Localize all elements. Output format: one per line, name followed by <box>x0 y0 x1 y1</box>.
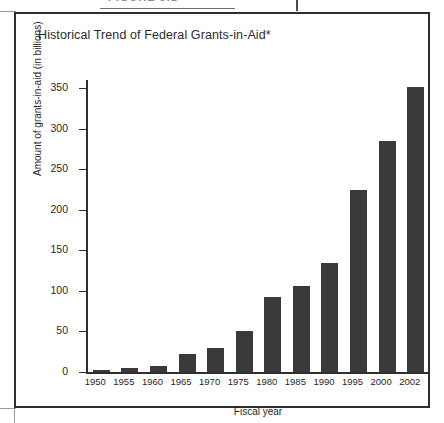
y-axis-tick-label: 250 <box>50 162 68 174</box>
bar-chart-plot-area: 050100150200250300350 Amount of grants-i… <box>86 80 436 380</box>
bar[interactable] <box>236 331 253 372</box>
bar-slot: 1950 <box>87 80 116 372</box>
figure-header-strip: FIGURE 3.1 <box>0 0 444 12</box>
bar[interactable] <box>350 190 367 373</box>
bar-slot: 1955 <box>116 80 145 372</box>
figure-header-rule <box>100 8 235 9</box>
bar[interactable] <box>150 366 167 372</box>
y-axis-tick-label: 350 <box>50 81 68 93</box>
x-axis-line <box>86 372 430 374</box>
y-axis-tick-label: 50 <box>56 324 68 336</box>
y-axis-tick-label: 100 <box>50 284 68 296</box>
bar-slot: 1985 <box>287 80 316 372</box>
x-axis-title: Fiscal year <box>86 406 430 417</box>
bar-slot: 2002 <box>401 80 430 372</box>
chart-title: Historical Trend of Federal Grants-in-Ai… <box>38 28 271 42</box>
y-axis-tick: 200 <box>79 210 87 211</box>
bar[interactable] <box>121 368 138 372</box>
y-axis-tick: 100 <box>79 291 87 292</box>
bar-slot: 1975 <box>230 80 259 372</box>
x-axis-tick-label: 2002 <box>390 376 430 387</box>
bar-series: 1950195519601965197019751980198519901995… <box>87 80 430 372</box>
bar[interactable] <box>293 286 310 372</box>
bar[interactable] <box>321 263 338 373</box>
bar-slot: 1990 <box>316 80 345 372</box>
bar[interactable] <box>179 354 196 372</box>
bar-slot: 1965 <box>173 80 202 372</box>
y-axis-tick-label: 0 <box>62 365 68 377</box>
y-axis-tick: 250 <box>79 169 87 170</box>
figure-number-label: FIGURE 3.1 <box>108 0 178 3</box>
bar[interactable] <box>207 348 224 372</box>
bar[interactable] <box>93 370 110 372</box>
bar-slot: 1960 <box>144 80 173 372</box>
figure-header-tick <box>296 0 298 11</box>
y-axis-tick: 300 <box>79 129 87 130</box>
bar[interactable] <box>264 297 281 372</box>
y-axis-tick: 0 <box>79 372 87 373</box>
bar-slot: 1980 <box>259 80 288 372</box>
figure-page: FIGURE 3.1 Historical Trend of Federal G… <box>0 0 444 423</box>
bar-slot: 1970 <box>201 80 230 372</box>
y-axis-tick: 150 <box>79 250 87 251</box>
bar-slot: 2000 <box>373 80 402 372</box>
y-axis-tick: 350 <box>79 88 87 89</box>
y-axis-tick-label: 300 <box>50 122 68 134</box>
bar-slot: 1995 <box>344 80 373 372</box>
y-axis-title: Amount of grants-in-aid (in billions) <box>32 0 43 176</box>
bar[interactable] <box>407 87 424 373</box>
y-axis-tick-label: 150 <box>50 243 68 255</box>
y-axis-tick-label: 200 <box>50 203 68 215</box>
y-axis-tick: 50 <box>79 331 87 332</box>
figure-box: Historical Trend of Federal Grants-in-Ai… <box>14 12 430 408</box>
bar[interactable] <box>379 141 396 372</box>
